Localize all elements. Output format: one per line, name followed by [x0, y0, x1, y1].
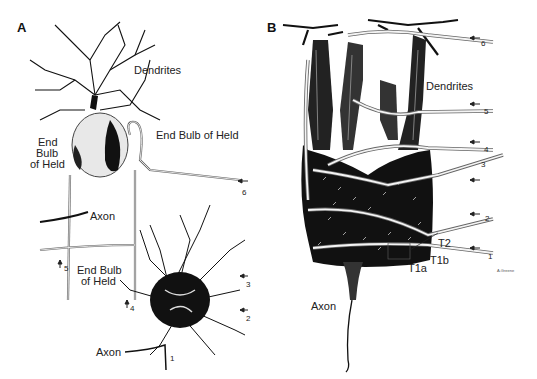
label-axon: Axon [311, 300, 336, 312]
input-number-3: 3 [481, 160, 485, 169]
label-t1b: T1b [430, 254, 449, 266]
input-number-4: 4 [130, 304, 134, 313]
input-number-3: 3 [246, 280, 250, 289]
panel-letter-b: B [267, 20, 276, 35]
input-number-4: 4 [484, 145, 488, 154]
input-number-5: 5 [64, 264, 68, 273]
label-end-bulb-of-held: End Bulb of Held [156, 129, 239, 141]
label-end-bulb-lower-2: of Held [81, 275, 116, 287]
input-number-1: 1 [488, 252, 492, 261]
neuron-illustration-b [268, 0, 537, 379]
artist-signature: A.Greene [497, 268, 514, 273]
label-end-bulb-left-3: of Held [30, 158, 65, 170]
label-t2: T2 [438, 237, 451, 249]
input-number-6: 6 [242, 188, 246, 197]
label-axon-upper: Axon [90, 210, 115, 222]
input-number-2: 2 [485, 214, 489, 223]
panel-a: A Dendrites End Bulb of Held End Bulb of… [0, 0, 268, 379]
label-dendrites: Dendrites [134, 64, 181, 76]
label-dendrites: Dendrites [426, 80, 473, 92]
input-number-6: 6 [481, 39, 485, 48]
input-number-1: 1 [170, 354, 174, 363]
panel-b: B Dendrites T2 T1b T1a Axon A.Greene 1 2… [268, 0, 537, 379]
label-t1a: T1a [408, 262, 427, 274]
panel-letter-a: A [17, 20, 26, 35]
input-number-5: 5 [484, 107, 488, 116]
neuron-illustration-a [0, 0, 268, 379]
input-number-2: 2 [246, 314, 250, 323]
label-axon-lower: Axon [96, 346, 121, 358]
